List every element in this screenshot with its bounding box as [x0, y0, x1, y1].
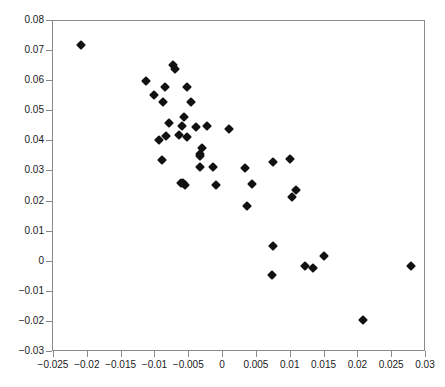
- plot-area: [52, 20, 425, 351]
- y-axis-tick: [46, 170, 52, 171]
- y-axis-tick: [46, 261, 52, 262]
- x-axis-tick: [324, 351, 325, 357]
- y-axis-tick-label: 0.02: [0, 196, 44, 206]
- y-axis-tick: [46, 201, 52, 202]
- x-axis-tick: [121, 351, 122, 357]
- y-axis-tick: [46, 291, 52, 292]
- y-axis-tick-label: 0.08: [0, 15, 44, 25]
- y-axis-tick: [46, 321, 52, 322]
- y-axis-tick-label: −0.01: [0, 286, 44, 296]
- scatter-chart: −0.03−0.02−0.0100.010.020.030.040.050.06…: [0, 0, 445, 387]
- y-axis-tick-label: 0.04: [0, 135, 44, 145]
- y-axis-tick: [46, 351, 52, 352]
- x-axis-tick-label: 0.03: [395, 360, 445, 370]
- y-axis-tick: [46, 110, 52, 111]
- x-axis-tick: [222, 351, 223, 357]
- x-axis-tick: [53, 351, 54, 357]
- y-axis-tick-label: −0.02: [0, 316, 44, 326]
- x-axis-tick: [391, 351, 392, 357]
- x-axis-tick: [256, 351, 257, 357]
- x-axis-tick: [188, 351, 189, 357]
- y-axis-tick: [46, 231, 52, 232]
- y-axis-tick-label: 0.07: [0, 45, 44, 55]
- y-axis-tick-label: 0.03: [0, 165, 44, 175]
- y-axis-tick: [46, 50, 52, 51]
- y-axis-tick-label: 0.05: [0, 105, 44, 115]
- x-axis-tick: [290, 351, 291, 357]
- x-axis-tick: [357, 351, 358, 357]
- x-axis-tick: [425, 351, 426, 357]
- x-axis-tick: [154, 351, 155, 357]
- y-axis-tick-label: 0.01: [0, 226, 44, 236]
- y-axis-tick: [46, 20, 52, 21]
- y-axis-tick-label: 0: [0, 256, 44, 266]
- y-axis-tick-label: −0.03: [0, 346, 44, 356]
- y-axis-tick: [46, 140, 52, 141]
- x-axis-tick: [87, 351, 88, 357]
- y-axis-tick-label: 0.06: [0, 75, 44, 85]
- y-axis-tick: [46, 80, 52, 81]
